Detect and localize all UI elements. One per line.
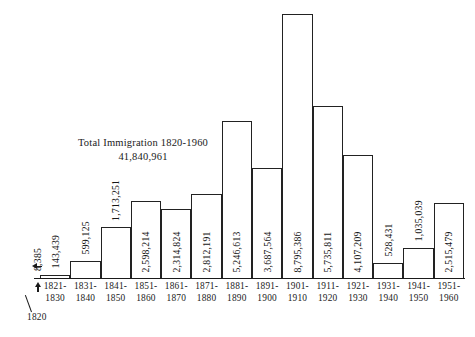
x-tick-label: 1871-1880 bbox=[191, 281, 221, 305]
bar[interactable] bbox=[70, 261, 100, 279]
x-tick-label: 1951-1960 bbox=[434, 281, 464, 305]
x-tick-label: 1861-1870 bbox=[161, 281, 191, 305]
x-tick-line: 1931- bbox=[373, 281, 403, 293]
x-tick-line: 1941- bbox=[403, 281, 433, 293]
x-tick-label: 1941-1950 bbox=[403, 281, 433, 305]
bar-value-label: 4,107,209 bbox=[352, 218, 363, 272]
x-tick-line: 1821- bbox=[40, 281, 70, 293]
x-tick-label: 1891-1900 bbox=[252, 281, 282, 305]
x-tick-label: 1851-1860 bbox=[131, 281, 161, 305]
x-tick-label: 1931-1940 bbox=[373, 281, 403, 305]
bar-value-label: 1,713,251 bbox=[110, 167, 121, 221]
bar-value-label: 599,125 bbox=[80, 211, 91, 254]
immigration-bar-chart: Total Immigration 1820-1960 41,840,961 8… bbox=[0, 0, 475, 337]
bar-value-label: 143,439 bbox=[50, 225, 61, 268]
x-tick-label: 1901-1910 bbox=[282, 281, 312, 305]
x-tick-line: 1880 bbox=[191, 293, 221, 305]
x-tick-line: 1890 bbox=[222, 293, 252, 305]
bar-value-label: 8,795,386 bbox=[292, 218, 303, 272]
x-tick-line: 1891- bbox=[252, 281, 282, 293]
x-tick-line: 1851- bbox=[131, 281, 161, 293]
bar-value-label: 1,035,039 bbox=[413, 187, 424, 241]
x-tick-label: 1921-1930 bbox=[343, 281, 373, 305]
first-value-leader-line bbox=[36, 266, 42, 267]
bar[interactable] bbox=[373, 263, 403, 279]
x-tick-label: 1881-1890 bbox=[222, 281, 252, 305]
bar-value-label: 2,812,191 bbox=[201, 218, 212, 272]
x-axis-labels: 1821-18301831-18401841-18501851-18601861… bbox=[34, 281, 465, 315]
bar-value-label: 5,246,613 bbox=[231, 218, 242, 272]
x-tick-line: 1871- bbox=[191, 281, 221, 293]
x-tick-label: 1841-1850 bbox=[101, 281, 131, 305]
x-tick-line: 1960 bbox=[434, 293, 464, 305]
origin-year-label: 1820 bbox=[27, 312, 47, 322]
x-tick-line: 1950 bbox=[403, 293, 433, 305]
plot-area: 8,385143,439599,1251,713,2512,598,2142,3… bbox=[34, 8, 464, 279]
x-tick-label: 1831-1840 bbox=[70, 281, 100, 305]
bar-value-label: 3,687,564 bbox=[262, 218, 273, 272]
x-tick-line: 1850 bbox=[101, 293, 131, 305]
bar-value-label: 2,314,824 bbox=[171, 218, 182, 272]
x-tick-line: 1901- bbox=[282, 281, 312, 293]
x-tick-line: 1840 bbox=[70, 293, 100, 305]
x-tick-line: 1861- bbox=[161, 281, 191, 293]
bar-value-label: 2,598,214 bbox=[140, 218, 151, 272]
x-tick-label: 1821-1830 bbox=[40, 281, 70, 305]
x-tick-line: 1921- bbox=[343, 281, 373, 293]
bar-value-label: 528,431 bbox=[383, 213, 394, 256]
bar-value-label: 5,735,811 bbox=[322, 218, 333, 272]
bar[interactable] bbox=[403, 248, 433, 279]
bar-value-label: 2,515,479 bbox=[443, 218, 454, 272]
x-tick-label: 1911-1920 bbox=[313, 281, 343, 305]
x-tick-line: 1881- bbox=[222, 281, 252, 293]
bar[interactable] bbox=[101, 227, 131, 279]
x-tick-line: 1870 bbox=[161, 293, 191, 305]
x-tick-line: 1841- bbox=[101, 281, 131, 293]
x-tick-line: 1911- bbox=[313, 281, 343, 293]
bar-column bbox=[101, 8, 131, 279]
origin-leader-line bbox=[25, 295, 32, 312]
origin-arrow-stem bbox=[37, 287, 38, 292]
x-tick-line: 1951- bbox=[434, 281, 464, 293]
x-axis-line bbox=[34, 278, 465, 279]
x-tick-line: 1910 bbox=[282, 293, 312, 305]
x-tick-line: 1930 bbox=[343, 293, 373, 305]
x-tick-line: 1860 bbox=[131, 293, 161, 305]
x-tick-line: 1831- bbox=[70, 281, 100, 293]
x-tick-line: 1900 bbox=[252, 293, 282, 305]
x-tick-line: 1940 bbox=[373, 293, 403, 305]
x-tick-line: 1830 bbox=[40, 293, 70, 305]
x-tick-line: 1920 bbox=[313, 293, 343, 305]
